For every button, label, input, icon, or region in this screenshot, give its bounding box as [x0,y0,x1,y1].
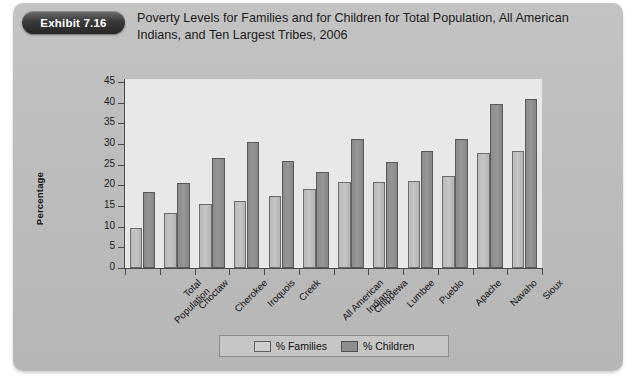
exhibit-title: Poverty Levels for Families and for Chil… [137,10,607,44]
bar-families [164,213,177,268]
y-tick [118,144,125,145]
x-axis-label: Pueblo [437,277,466,306]
x-axis-label: Iroquois [265,277,297,309]
bar-families [199,204,212,268]
bar-children [247,142,260,268]
y-tick [118,185,125,186]
x-tick [264,269,265,275]
bar-children [316,172,329,268]
bar-children [490,104,503,269]
bar-families [338,182,351,268]
y-tick-label: 30 [91,137,115,148]
y-tick [118,82,125,83]
x-tick [229,269,230,275]
x-axis-label: Sioux [540,277,565,302]
x-axis-label: Lumbee [404,277,437,310]
legend-label-families: % Families [276,340,327,352]
legend-item-children: % Children [341,340,414,352]
x-tick [403,269,404,275]
x-tick [368,269,369,275]
x-tick [299,269,300,275]
bar-families [303,189,316,268]
exhibit-panel: Exhibit 7.16 Poverty Levels for Families… [13,3,623,371]
chart-legend: % Families % Children [219,335,449,357]
x-tick [542,269,543,275]
y-tick-label: 15 [91,199,115,210]
bar-families [234,201,247,268]
bar-children [282,161,295,268]
x-axis-label: Navaho [508,277,540,309]
bar-families [130,228,143,269]
y-tick-label: 10 [91,220,115,231]
bar-children [421,151,434,268]
bar-families [442,176,455,268]
x-tick [160,269,161,275]
bar-families [269,196,282,268]
bar-children [212,158,225,268]
bar-children [386,162,399,268]
y-tick-label: 0 [91,261,115,272]
bar-children [177,183,190,268]
y-tick-label: 5 [91,240,115,251]
y-tick [118,103,125,104]
x-tick [438,269,439,275]
x-tick [195,269,196,275]
bar-children [143,192,156,268]
bar-children [351,139,364,268]
bar-families [477,153,490,268]
y-tick-label: 25 [91,158,115,169]
y-tick [118,247,125,248]
legend-swatch-children [341,341,358,352]
bar-families [408,181,421,268]
bar-children [455,139,468,268]
y-tick [118,206,125,207]
legend-swatch-families [254,341,271,352]
x-tick [334,269,335,275]
y-tick [118,123,125,124]
y-tick [118,227,125,228]
y-tick-label: 35 [91,116,115,127]
x-tick [473,269,474,275]
bar-families [373,182,386,268]
x-axis-label: Cherokee [232,277,270,315]
y-axis-label: Percentage [34,154,45,244]
legend-label-children: % Children [363,340,414,352]
bar-children [525,99,538,268]
y-tick-label: 45 [91,75,115,86]
exhibit-badge: Exhibit 7.16 [22,11,125,34]
y-tick-label: 20 [91,178,115,189]
x-tick [507,269,508,275]
y-tick-label: 40 [91,96,115,107]
x-axis-label: Creek [297,277,323,303]
bar-families [512,151,525,268]
y-axis-line [124,79,125,269]
chart-area: Percentage 051015202530354045 TotalPopul… [13,53,623,371]
y-tick [118,268,125,269]
x-axis-label: Apache [473,277,504,308]
x-tick [125,269,126,275]
y-tick [118,165,125,166]
legend-item-families: % Families [254,340,327,352]
